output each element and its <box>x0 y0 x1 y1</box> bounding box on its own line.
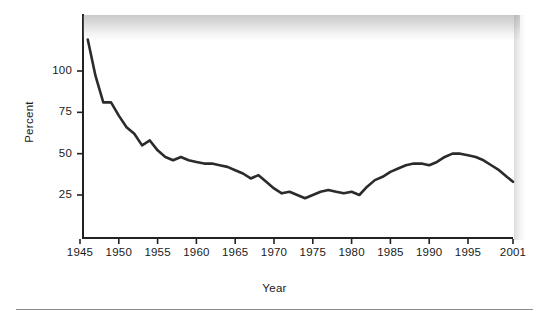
x-axis-tick-label: 1985 <box>368 246 412 258</box>
x-axis-tick-label: 1980 <box>330 246 374 258</box>
chart-canvas <box>0 0 549 316</box>
x-axis-title: Year <box>0 282 549 294</box>
x-axis-tick-label: 1965 <box>213 246 257 258</box>
x-axis-tick-label: 1975 <box>291 246 335 258</box>
x-axis-tick-label: 1970 <box>252 246 296 258</box>
y-axis-tick-label: 100 <box>44 64 72 78</box>
x-axis-tick-label: 1995 <box>446 246 490 258</box>
y-axis-tick-marks <box>77 71 82 195</box>
x-axis-tick-label: 2001 <box>491 246 535 258</box>
page-divider-rule <box>16 309 533 310</box>
y-axis-tick-label-text: 25 <box>44 188 72 200</box>
x-axis-tick-label: 1960 <box>174 246 218 258</box>
y-axis-tick-label-text: 100 <box>44 64 72 76</box>
x-axis-tick-marks <box>80 239 513 244</box>
y-axis-title: Percent <box>23 101 35 143</box>
x-axis-tick-label: 1945 <box>58 246 102 258</box>
y-axis-tick-label: 75 <box>44 105 72 119</box>
data-series-line <box>88 40 513 199</box>
y-axis-tick-label-text: 75 <box>44 105 72 117</box>
y-axis-tick-label: 50 <box>44 147 72 161</box>
y-axis-tick-label: 25 <box>44 188 72 202</box>
x-axis-tick-label: 1990 <box>407 246 451 258</box>
y-axis-tick-label-text: 50 <box>44 147 72 159</box>
chart-figure: 100755025 194519501955196019651970197519… <box>0 0 549 316</box>
x-axis-tick-label: 1955 <box>136 246 180 258</box>
x-axis-tick-label: 1950 <box>97 246 141 258</box>
